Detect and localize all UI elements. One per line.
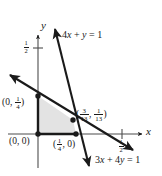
point-label-intersection: ( 3 13 , 1 13 ) [76, 107, 107, 122]
fraction-denominator: 13 [94, 114, 103, 122]
feasible-region-shading [38, 96, 76, 134]
fraction-numerator: 1 [15, 95, 20, 102]
paren-close: ) [72, 139, 75, 149]
comma: , [10, 97, 15, 107]
fraction-denominator: 2 [24, 47, 29, 55]
equation-label-4x-plus-y: 4x + y = 1 [62, 30, 102, 40]
plus-sign: + [107, 154, 113, 165]
y-axis-label: y [41, 20, 46, 31]
x-axis-tick-label-half: 1 2 [118, 139, 124, 154]
point-label-x-intercept: ( 1 4 , 0) [53, 137, 75, 152]
fraction-numerator: 1 [24, 40, 29, 47]
fraction-numerator: 1 [119, 139, 124, 146]
paren-close: ) [104, 109, 107, 119]
right-hand-side: 1 [97, 29, 102, 40]
fraction-denominator: 2 [119, 146, 124, 154]
fraction-three-thirteenths: 3 13 [80, 107, 89, 122]
point-label-y-intercept: (0, 1 4 ) [2, 95, 24, 110]
fraction-one-thirteenth: 1 13 [94, 107, 103, 122]
fraction-denominator: 4 [15, 102, 20, 110]
fraction-numerator: 3 [80, 107, 89, 114]
fraction-one-half-x: 1 2 [119, 139, 124, 154]
right-hand-side: 1 [135, 154, 140, 165]
vertex-dot-intersection [70, 117, 75, 122]
variable-x: x [100, 154, 104, 165]
vertex-dot-x-intercept [73, 131, 78, 136]
equals-sign: = [89, 29, 95, 40]
x-axis-label: x [146, 126, 151, 137]
y-axis-tick-label-half: 1 2 [23, 40, 29, 55]
paren-close: ) [26, 136, 29, 146]
fraction-one-half-y: 1 2 [24, 40, 29, 55]
vertex-dot-y-intercept [35, 93, 40, 98]
fraction-one-quarter: 1 4 [57, 137, 62, 152]
fraction-denominator: 13 [80, 114, 89, 122]
variable-x: x [67, 29, 71, 40]
plus-sign: + [74, 29, 80, 40]
comma: , [89, 109, 94, 119]
equals-sign: = [127, 154, 133, 165]
equation-label-3x-plus-4y: 3x + 4y = 1 [95, 155, 140, 165]
variable-y: y [120, 154, 124, 165]
variable-y: y [82, 29, 86, 40]
graph-canvas [0, 0, 162, 176]
paren-close: ) [21, 97, 24, 107]
point-label-origin: (0, 0) [9, 137, 30, 147]
graph-figure: y x 1 2 1 2 4x + y = 1 3x + 4y = 1 (0, 1… [0, 0, 162, 176]
fraction-numerator: 1 [94, 107, 103, 114]
vertex-dot-origin [35, 131, 40, 136]
fraction-one-quarter: 1 4 [15, 95, 20, 110]
fraction-denominator: 4 [57, 144, 62, 152]
fraction-numerator: 1 [57, 137, 62, 144]
